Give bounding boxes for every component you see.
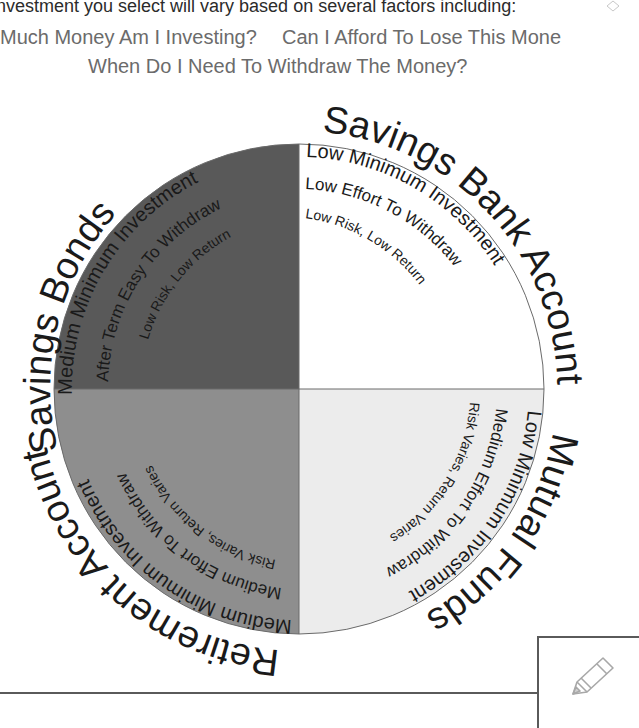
pencil-icon[interactable]	[567, 652, 619, 700]
notes-box	[537, 636, 639, 728]
bottom-divider	[0, 692, 537, 694]
